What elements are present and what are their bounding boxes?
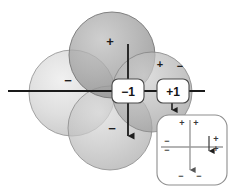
inset-schematic: + + − − − − + + — [157, 115, 227, 185]
orbital-sign-diagram: + − − + − −1 +1 + + − — [0, 0, 232, 190]
sign-bottom: − — [108, 121, 116, 136]
node-minus-one-label: −1 — [121, 85, 135, 99]
figure-container: + − − + − −1 +1 + + − — [0, 0, 232, 190]
inset-sign-left-lower: − — [164, 145, 169, 155]
inset-sign-top-right: + — [193, 118, 198, 128]
inset-sign-bottom-right: − — [196, 171, 201, 181]
sign-upper-right: + — [157, 58, 163, 70]
node-plus-one[interactable]: +1 — [157, 79, 189, 103]
node-minus-one[interactable]: −1 — [112, 79, 144, 103]
inset-sign-top-left: + — [179, 118, 184, 128]
node-plus-one-label: +1 — [166, 85, 180, 99]
sign-top: + — [106, 34, 114, 49]
inset-sign-bottom-left: − — [178, 171, 183, 181]
inset-sign-right-lower: + — [213, 144, 218, 154]
inset-sign-right-upper: + — [213, 134, 218, 144]
sign-left: − — [64, 73, 72, 88]
sign-right-edge: − — [177, 60, 183, 72]
